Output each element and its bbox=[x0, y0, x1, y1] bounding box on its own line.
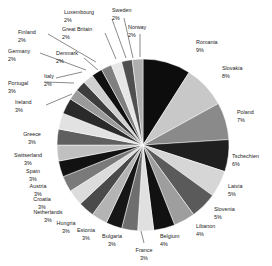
leader-line bbox=[112, 19, 126, 58]
slice-label-percent: 7% bbox=[237, 117, 245, 123]
slice-label-percent: 2% bbox=[64, 17, 72, 23]
slice-label-name: Germany bbox=[8, 48, 30, 54]
slice-label-name: Austria bbox=[30, 183, 47, 189]
slice-label-percent: 2% bbox=[18, 37, 26, 43]
slice-label-name: Libanon bbox=[196, 223, 215, 229]
slice-label-percent: 2% bbox=[62, 34, 70, 40]
slice-label-percent: 3% bbox=[38, 204, 46, 210]
slice-label-percent: 5% bbox=[214, 214, 222, 220]
slice-label-name: France bbox=[136, 247, 153, 253]
slice-label-percent: 2% bbox=[8, 56, 16, 62]
slice-label-percent: 4% bbox=[160, 241, 168, 247]
slice-label-name: Spain bbox=[26, 168, 40, 174]
slice-label-percent: 5% bbox=[228, 191, 236, 197]
slice-label-percent: 9% bbox=[196, 47, 204, 53]
slice-label-name: Ireland bbox=[15, 99, 31, 105]
slice-label-percent: 3% bbox=[15, 107, 23, 113]
slice-label-name: Bulgaria bbox=[102, 233, 122, 239]
slice-label-percent: 3% bbox=[108, 241, 116, 247]
slice-label-name: Sweden bbox=[112, 7, 131, 13]
slice-label-name: Portugal bbox=[8, 80, 28, 86]
slice-label-percent: 8% bbox=[222, 73, 230, 79]
slice-label-name: Poland bbox=[237, 109, 254, 115]
slice-label-name: Greece bbox=[23, 131, 41, 137]
slice-label-name: Tschechien bbox=[232, 153, 259, 159]
pie-chart-figure: Romania9%Slovakia8%Poland7%Tschechien6%L… bbox=[0, 0, 272, 266]
slice-label-name: Finland bbox=[18, 29, 36, 35]
slice-label-name: Switserland bbox=[14, 152, 42, 158]
slice-label-percent: 4% bbox=[196, 231, 204, 237]
slice-label-percent: 2% bbox=[112, 15, 120, 21]
slice-label-percent: 3% bbox=[44, 217, 52, 223]
slice-label-name: Denmark bbox=[56, 50, 78, 56]
slice-label-name: Belgium bbox=[160, 233, 180, 239]
leader-line bbox=[84, 58, 98, 70]
slice-label-percent: 3% bbox=[82, 235, 90, 241]
slice-label-name: Slovenia bbox=[214, 206, 235, 212]
slice-label-percent: 2% bbox=[44, 81, 52, 87]
slice-label-percent: 3% bbox=[29, 176, 37, 182]
slice-label-percent: 2% bbox=[128, 32, 136, 38]
slice-label-name: Estonia bbox=[77, 227, 95, 233]
pie-slices-group bbox=[57, 59, 229, 231]
pie-chart-svg: Romania9%Slovakia8%Poland7%Tschechien6%L… bbox=[0, 0, 272, 266]
slice-label-percent: 3% bbox=[140, 255, 148, 261]
slice-label-percent: 3% bbox=[62, 228, 70, 234]
slice-label-percent: 2% bbox=[56, 58, 64, 64]
slice-label-name: Romania bbox=[196, 39, 218, 45]
slice-label-percent: 3% bbox=[34, 191, 42, 197]
slice-label-name: Norway bbox=[128, 24, 147, 30]
leader-line bbox=[105, 33, 116, 59]
slice-label-name: Great Britain bbox=[62, 26, 92, 32]
slice-label-name: Latvia bbox=[228, 183, 242, 189]
slice-label-percent: 3% bbox=[8, 88, 16, 94]
slice-label-percent: 6% bbox=[232, 161, 240, 167]
leader-line bbox=[56, 72, 82, 78]
slice-label-percent: 3% bbox=[28, 139, 36, 145]
slice-label-name: Slovakia bbox=[222, 65, 242, 71]
slice-label-name: Luxembourg bbox=[64, 9, 94, 15]
leader-line bbox=[141, 231, 144, 243]
slice-label-percent: 3% bbox=[24, 160, 32, 166]
slice-label-name: Italy bbox=[44, 73, 54, 79]
slice-label-name: Hungria bbox=[57, 220, 76, 226]
